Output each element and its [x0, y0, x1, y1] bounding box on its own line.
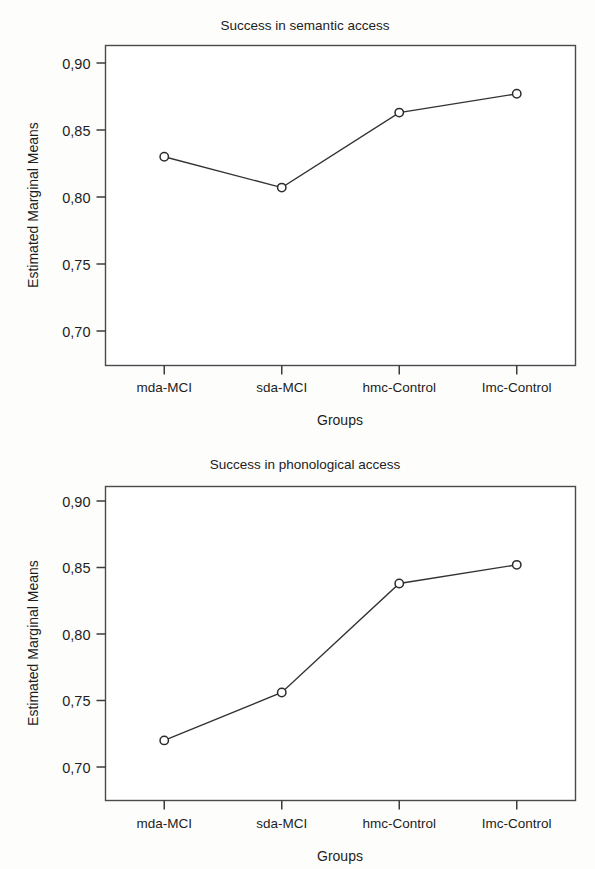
x-category-label: mda-MCI: [136, 816, 192, 831]
y-tick-label: 0,90: [62, 56, 90, 72]
x-category-label: hmc-Control: [362, 816, 436, 831]
x-category-label: Imc-Control: [482, 380, 552, 395]
data-point-marker: [160, 736, 168, 744]
plot-area-frame: [106, 46, 576, 366]
y-tick-label: 0,70: [62, 760, 90, 776]
chart-panel-phonological-access: Success in phonological access Estimated…: [0, 434, 595, 869]
x-axis-ticks: [164, 366, 517, 375]
chart-svg-1: Success in semantic access Estimated Mar…: [0, 0, 595, 435]
y-axis-title: Estimated Marginal Means: [25, 122, 41, 288]
data-point-marker: [513, 90, 521, 98]
y-axis-ticks: 0,900,850,800,750,70: [62, 56, 105, 340]
y-tick-label: 0,75: [62, 257, 90, 273]
x-category-label: sda-MCI: [256, 816, 307, 831]
data-point-marker: [160, 153, 168, 161]
x-axis-ticks: [164, 801, 517, 810]
y-tick-label: 0,90: [62, 494, 90, 510]
x-category-label: mda-MCI: [136, 380, 192, 395]
y-axis-title: Estimated Marginal Means: [25, 560, 41, 726]
x-axis-category-labels: mda-MCIsda-MCIhmc-ControlImc-Control: [136, 380, 551, 395]
y-tick-label: 0,85: [62, 560, 90, 576]
y-tick-label: 0,75: [62, 693, 90, 709]
x-category-label: sda-MCI: [256, 380, 307, 395]
chart-title: Success in phonological access: [210, 457, 401, 472]
plot-area-frame: [106, 487, 576, 801]
x-axis-title: Groups: [317, 412, 363, 428]
y-tick-label: 0,85: [62, 123, 90, 139]
y-axis-ticks: 0,900,850,800,750,70: [62, 494, 105, 776]
chart-svg-2: Success in phonological access Estimated…: [0, 434, 595, 869]
data-point-marker: [278, 183, 286, 191]
x-axis-category-labels: mda-MCIsda-MCIhmc-ControlImc-Control: [136, 816, 551, 831]
data-point-marker: [395, 108, 403, 116]
data-point-marker: [278, 688, 286, 696]
chart-panel-semantic-access: Success in semantic access Estimated Mar…: [0, 0, 595, 435]
x-axis-title: Groups: [317, 848, 363, 864]
chart-title: Success in semantic access: [221, 18, 390, 33]
x-category-label: Imc-Control: [482, 816, 552, 831]
data-point-marker: [513, 561, 521, 569]
y-tick-label: 0,80: [62, 190, 90, 206]
figure-page: Success in semantic access Estimated Mar…: [0, 0, 595, 869]
x-category-label: hmc-Control: [362, 380, 436, 395]
y-tick-label: 0,80: [62, 627, 90, 643]
y-tick-label: 0,70: [62, 324, 90, 340]
data-point-marker: [395, 579, 403, 587]
